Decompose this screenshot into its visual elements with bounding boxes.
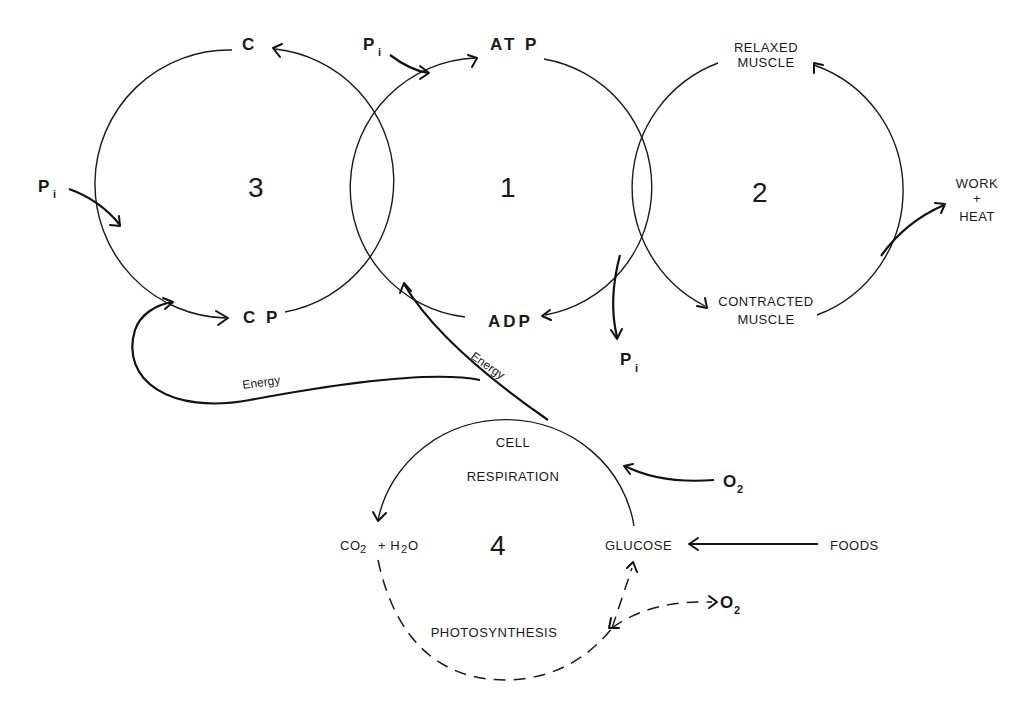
co2-subscript: 2 <box>360 543 366 555</box>
label-contracted-2: MUSCLE <box>737 312 794 327</box>
label-atp: AT P <box>490 35 539 54</box>
label-pi-left: P <box>38 177 52 196</box>
label-relaxed-2: MUSCLE <box>737 55 794 70</box>
cycle-3-right-arc <box>275 49 394 312</box>
label-cp: C P <box>243 308 280 327</box>
pi-arrow-left <box>69 189 120 225</box>
cycle-4-number: 4 <box>490 530 506 561</box>
label-cell: CELL <box>496 435 531 450</box>
label-heat: HEAT <box>959 209 995 224</box>
cycle-2-left-arc <box>632 63 718 306</box>
cycle-1-right-arc <box>544 59 652 315</box>
pi-arrow-top <box>390 55 428 73</box>
label-pi-top: P <box>363 35 377 54</box>
energy-arrows: Energy Energy <box>132 283 548 420</box>
pi-subscript: i <box>53 188 56 200</box>
photosynthesis-to-glucose <box>612 568 632 628</box>
photosynthesis-arc <box>378 560 612 680</box>
o2-subscript: 2 <box>737 483 743 495</box>
label-relaxed-1: RELAXED <box>734 40 798 55</box>
pi-subscript: i <box>378 46 381 58</box>
cycle-4: 4 CELL RESPIRATION PHOTOSYNTHESIS CO 2 +… <box>340 420 879 680</box>
label-respiration: RESPIRATION <box>467 469 560 484</box>
label-plus: + <box>973 191 981 206</box>
label-c: C <box>242 35 257 54</box>
label-foods: FOODS <box>830 538 879 553</box>
label-pi-bottom: P <box>620 350 634 369</box>
cycle-3-number: 3 <box>248 172 264 203</box>
arrowhead-icon <box>273 44 282 57</box>
photosynthesis-o2-arrow <box>612 602 712 628</box>
cycle-3-left-arc <box>95 50 232 318</box>
label-energy-1: Energy <box>468 349 507 382</box>
cycle-1-number: 1 <box>500 172 516 203</box>
cycle-1-left-arc <box>350 58 475 317</box>
label-co2: CO <box>340 538 361 553</box>
cycle-2-number: 2 <box>752 177 768 208</box>
label-glucose: GLUCOSE <box>605 538 672 553</box>
label-energy-2: Energy <box>241 373 281 392</box>
pi-subscript: i <box>635 362 638 374</box>
cycle-1: 1 AT P ADP P i P i <box>350 35 652 374</box>
arrowhead-icon <box>627 562 637 572</box>
label-contracted-1: CONTRACTED <box>718 294 813 309</box>
o2-subscript: 2 <box>734 604 740 616</box>
label-work: WORK <box>956 176 998 191</box>
label-h2o-o: O <box>408 538 419 553</box>
cycle-2-right-arc <box>814 65 903 315</box>
label-plus-h2o: + H <box>378 538 400 553</box>
energy-cycles-diagram: 3 C C P P i 1 AT P ADP P i P i <box>0 0 1025 705</box>
label-adp: ADP <box>488 312 533 331</box>
h2o-subscript: 2 <box>401 543 407 555</box>
label-photosynthesis: PHOTOSYNTHESIS <box>431 625 558 640</box>
pi-arrow-bottom <box>613 255 620 337</box>
cycle-3: 3 C C P P i <box>38 35 394 327</box>
cycle-2: 2 RELAXED MUSCLE CONTRACTED MUSCLE WORK … <box>632 40 998 327</box>
arrowhead-icon <box>468 55 477 67</box>
o2-arrow-in <box>625 466 714 481</box>
